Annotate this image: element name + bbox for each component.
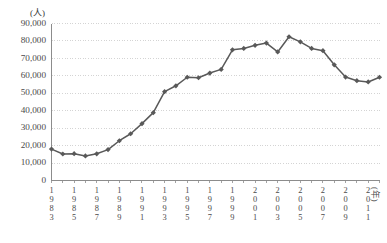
x-axis-tick-label: 2001 (250, 186, 260, 223)
x-tick-digit: 1 (363, 213, 373, 222)
x-tick-digit: 9 (227, 195, 237, 204)
x-tick-digit: 9 (160, 195, 170, 204)
x-tick-digit: 2 (341, 186, 351, 195)
y-axis-tick-label: 60,000 (0, 71, 46, 80)
x-tick-digit: 9 (341, 213, 351, 222)
y-axis-tick-label: 0 (0, 176, 46, 185)
x-tick-digit: 3 (273, 213, 283, 222)
x-tick-digit: 9 (137, 195, 147, 204)
x-axis-tick-label: 1997 (205, 186, 215, 223)
y-axis-tick-label: 80,000 (0, 36, 46, 45)
x-tick-digit: 1 (182, 186, 192, 195)
x-tick-digit: 0 (273, 195, 283, 204)
x-tick-digit: 9 (69, 195, 79, 204)
x-tick-digit: 7 (318, 213, 328, 222)
line-chart: (人) 90,00080,00070,00060,00050,00040,000… (0, 0, 387, 243)
x-tick-digit: 9 (114, 195, 124, 204)
x-tick-digit: 0 (341, 195, 351, 204)
x-tick-digit: 1 (137, 213, 147, 222)
x-tick-digit: 2 (295, 186, 305, 195)
x-tick-digit: 5 (69, 213, 79, 222)
y-axis-tick-label: 20,000 (0, 141, 46, 150)
x-tick-digit: 3 (160, 213, 170, 222)
x-axis-tick-label: 1995 (182, 186, 192, 223)
y-axis-tick-label: 10,000 (0, 158, 46, 167)
x-tick-digit: 7 (92, 213, 102, 222)
x-tick-digit: 8 (92, 204, 102, 213)
x-axis-tick-label: 1991 (137, 186, 147, 223)
x-axis-tick-label: 1983 (47, 186, 57, 223)
x-tick-digit: 5 (182, 213, 192, 222)
x-axis-tick-label: 2009 (341, 186, 351, 223)
x-tick-digit: 1 (250, 213, 260, 222)
x-tick-digit: 0 (250, 204, 260, 213)
x-tick-digit: 1 (205, 186, 215, 195)
x-tick-digit: 1 (227, 186, 237, 195)
x-axis-tick-label: 2005 (295, 186, 305, 223)
x-tick-digit: 0 (295, 195, 305, 204)
x-tick-digit: 1 (160, 186, 170, 195)
x-tick-digit: 5 (295, 213, 305, 222)
x-tick-digit: 9 (137, 204, 147, 213)
x-axis-tick-label: 1985 (69, 186, 79, 223)
x-tick-digit: 9 (92, 195, 102, 204)
x-tick-digit: 2 (318, 186, 328, 195)
x-axis-tick-label: 2007 (318, 186, 328, 223)
x-tick-digit: 9 (47, 195, 57, 204)
y-axis-tick-label: 40,000 (0, 106, 46, 115)
x-axis-unit-label: (年) (370, 187, 379, 202)
x-tick-digit: 2 (250, 186, 260, 195)
x-tick-digit: 9 (205, 204, 215, 213)
x-tick-digit: 9 (227, 213, 237, 222)
x-tick-digit: 0 (318, 195, 328, 204)
y-axis-tick-label: 50,000 (0, 88, 46, 97)
x-tick-digit: 0 (341, 204, 351, 213)
x-tick-digit: 1 (363, 204, 373, 213)
x-axis-tick-label: 1989 (114, 186, 124, 223)
x-tick-digit: 9 (182, 204, 192, 213)
x-axis-tick-label: 1999 (227, 186, 237, 223)
x-tick-digit: 1 (69, 186, 79, 195)
x-tick-digit: 9 (205, 195, 215, 204)
x-tick-digit: 0 (273, 204, 283, 213)
x-tick-digit: 7 (205, 213, 215, 222)
y-axis-tick-label: 90,000 (0, 19, 46, 28)
x-tick-digit: 1 (114, 186, 124, 195)
x-tick-digit: 1 (47, 186, 57, 195)
x-tick-digit: 2 (273, 186, 283, 195)
x-tick-digit: 1 (137, 186, 147, 195)
x-axis-tick-label: 1987 (92, 186, 102, 223)
x-tick-digit: 0 (318, 204, 328, 213)
x-tick-digit: 9 (227, 204, 237, 213)
x-tick-digit: 8 (69, 204, 79, 213)
x-tick-digit: 1 (92, 186, 102, 195)
x-tick-digit: 9 (160, 204, 170, 213)
x-tick-digit: 9 (182, 195, 192, 204)
x-tick-digit: 9 (114, 213, 124, 222)
x-axis-tick-label: 1993 (160, 186, 170, 223)
x-tick-digit: 0 (295, 204, 305, 213)
x-axis-tick-label: 2003 (273, 186, 283, 223)
x-tick-digit: 3 (47, 213, 57, 222)
x-tick-digit: 0 (250, 195, 260, 204)
x-tick-digit: 8 (114, 204, 124, 213)
plot-area (0, 0, 387, 243)
y-axis-tick-label: 70,000 (0, 54, 46, 63)
x-tick-digit: 8 (47, 204, 57, 213)
y-axis-tick-label: 30,000 (0, 123, 46, 132)
